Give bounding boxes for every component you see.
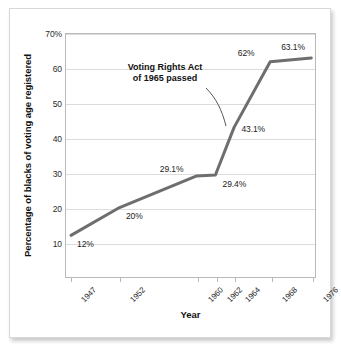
y-axis-tick-label: 50 [53, 99, 62, 109]
x-axis-tick-label: 1968 [280, 286, 299, 305]
x-axis-tick-label: 1947 [79, 286, 98, 305]
x-axis-tick-label: 1960 [206, 286, 225, 305]
x-axis-tick-label: 1976 [322, 286, 341, 305]
x-axis-tick-label: 1952 [128, 286, 147, 305]
y-axis-tick-label: 40 [53, 134, 62, 144]
x-axis-title: Year [65, 309, 316, 320]
x-axis-tick-label: 1962 [225, 286, 244, 305]
x-axis-tick-label: 1964 [244, 286, 263, 305]
y-axis-title: Percentage of blacks of voting age regis… [20, 33, 36, 278]
y-axis-tick-label: 30 [53, 169, 62, 179]
annotation-line-1: Voting Rights Act [110, 62, 220, 73]
y-axis-title-text: Percentage of blacks of voting age regis… [23, 54, 34, 257]
chart-figure: Percentage of blacks of voting age regis… [9, 8, 331, 338]
y-axis-tick-label: 10 [53, 239, 62, 249]
y-axis-tick-label: 60 [53, 64, 62, 74]
y-axis-tick-label: 70% [45, 29, 62, 39]
y-axis-tick-label: 20 [53, 204, 62, 214]
plot-area: 10203040506070% 194719521960196219641968… [65, 33, 316, 278]
annotation-line-2: of 1965 passed [110, 73, 220, 84]
annotation-voting-rights-act: Voting Rights Act of 1965 passed [110, 62, 220, 85]
